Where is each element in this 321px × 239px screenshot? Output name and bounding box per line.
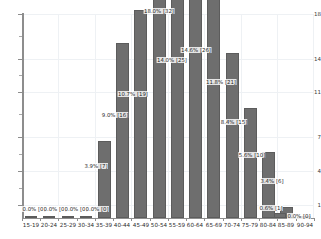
bar-45-49[interactable] bbox=[134, 10, 147, 218]
x-tick-label-45-49: 45-49 bbox=[133, 222, 149, 229]
x-axis: 15-19 20-24 25-29 30-34 35-39 40-44 45-4… bbox=[22, 218, 315, 219]
x-tick bbox=[131, 218, 132, 221]
plot-area bbox=[22, 14, 314, 218]
x-tick bbox=[150, 218, 151, 221]
bar-55-59[interactable] bbox=[171, 0, 184, 218]
bar-40-44[interactable] bbox=[116, 43, 129, 218]
x-tick bbox=[113, 218, 114, 221]
data-label-45-49: 10.7% [19] bbox=[118, 91, 149, 97]
gridline-vertical bbox=[277, 14, 278, 218]
y-axis bbox=[22, 13, 24, 219]
data-label-85-89: 0.6% [1] bbox=[259, 205, 283, 211]
x-tick-label-70-74: 70-74 bbox=[224, 222, 240, 229]
histogram-chart: 18 14 11 7 4 1 15-19 20-24 25-29 30-34 3… bbox=[0, 0, 321, 239]
y-tick-4 bbox=[18, 171, 22, 172]
y-tick-label-11: 11 bbox=[303, 89, 321, 95]
x-tick bbox=[40, 218, 41, 221]
data-label-50-54: 18.0% [32] bbox=[144, 8, 175, 14]
x-tick-label-75-79: 75-79 bbox=[242, 222, 258, 229]
y-tick-label-4: 4 bbox=[303, 168, 321, 174]
gridline-horizontal bbox=[22, 14, 314, 15]
bar-60-64[interactable] bbox=[189, 0, 202, 218]
x-tick bbox=[314, 218, 315, 221]
x-tick bbox=[259, 218, 260, 221]
x-tick bbox=[95, 218, 96, 221]
x-tick-label-80-84: 80-84 bbox=[260, 222, 276, 229]
data-label-35-39: 3.9% [7] bbox=[84, 163, 108, 169]
x-tick bbox=[186, 218, 187, 221]
x-tick-label-15-19: 15-19 bbox=[23, 222, 39, 229]
y-tick-minor bbox=[19, 114, 22, 115]
x-tick bbox=[77, 218, 78, 221]
y-tick-label-14: 14 bbox=[303, 56, 321, 62]
y-tick-label-1: 1 bbox=[303, 202, 321, 208]
x-tick bbox=[277, 218, 278, 221]
y-tick-minor bbox=[19, 154, 22, 155]
x-tick-label-55-59: 55-59 bbox=[169, 222, 185, 229]
gridline-vertical bbox=[168, 14, 169, 218]
legend-swatch-90-94 bbox=[274, 213, 286, 218]
gridline-vertical bbox=[58, 14, 59, 218]
x-tick bbox=[223, 218, 224, 221]
x-tick-label-30-34: 30-34 bbox=[78, 222, 94, 229]
data-label-90-94: 0.0% [0] bbox=[287, 213, 311, 219]
y-tick-minor bbox=[19, 75, 22, 76]
y-tick-14 bbox=[18, 59, 22, 60]
data-label-40-44: 9.0% [16] bbox=[101, 112, 128, 118]
gridline-horizontal bbox=[22, 92, 314, 93]
y-tick-7 bbox=[18, 137, 22, 138]
y-tick-minor bbox=[19, 36, 22, 37]
y-tick-label-7: 7 bbox=[303, 134, 321, 140]
bar-50-54[interactable] bbox=[153, 0, 166, 218]
data-label-30-34: 0.0% [0] bbox=[85, 206, 109, 212]
gridline-vertical bbox=[241, 14, 242, 218]
y-tick-18 bbox=[18, 14, 22, 15]
x-tick-label-40-44: 40-44 bbox=[114, 222, 130, 229]
x-tick-label-60-64: 60-64 bbox=[187, 222, 203, 229]
x-tick bbox=[58, 218, 59, 221]
gridline-vertical bbox=[313, 14, 314, 218]
y-tick-minor bbox=[19, 188, 22, 189]
data-label-55-59: 14.0% [25] bbox=[157, 57, 188, 63]
gridline-vertical bbox=[131, 14, 132, 218]
x-tick-label-35-39: 35-39 bbox=[96, 222, 112, 229]
gridline-vertical bbox=[95, 14, 96, 218]
x-tick-label-85-89: 85-89 bbox=[278, 222, 294, 229]
y-tick-11 bbox=[18, 92, 22, 93]
gridline-horizontal bbox=[22, 137, 314, 138]
bar-65-69[interactable] bbox=[207, 0, 220, 218]
y-tick-label-18: 18 bbox=[303, 11, 321, 17]
data-label-60-64: 14.6% [26] bbox=[181, 47, 212, 53]
x-tick-label-90-94: 90-94 bbox=[297, 222, 313, 229]
x-tick bbox=[241, 218, 242, 221]
data-label-80-84: 3.4% [6] bbox=[260, 178, 284, 184]
x-tick bbox=[22, 218, 23, 221]
x-tick-label-25-29: 25-29 bbox=[60, 222, 76, 229]
x-tick bbox=[204, 218, 205, 221]
gridline-vertical bbox=[204, 14, 205, 218]
data-label-70-74: 8.4% [15] bbox=[220, 119, 247, 125]
data-label-65-69: 11.8% [21] bbox=[206, 79, 237, 85]
x-tick-label-50-54: 50-54 bbox=[151, 222, 167, 229]
x-tick-label-20-24: 20-24 bbox=[41, 222, 57, 229]
data-label-75-79: 5.6% [10] bbox=[238, 152, 265, 158]
x-tick bbox=[168, 218, 169, 221]
x-tick-label-65-69: 65-69 bbox=[206, 222, 222, 229]
